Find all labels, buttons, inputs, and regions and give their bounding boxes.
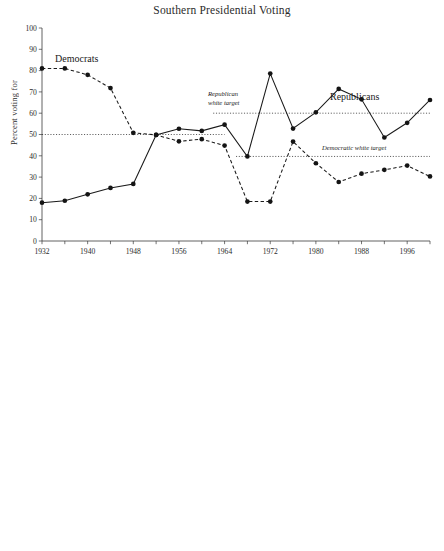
plot-svg-top: 0102030405060708090100193219401948195619…: [0, 0, 444, 275]
series-label-democrats: Democrats: [55, 53, 98, 64]
data-point: [177, 126, 182, 131]
y-tick-label: 60: [29, 109, 37, 118]
x-tick-label: 1972: [263, 247, 278, 256]
data-point: [291, 139, 296, 144]
y-tick-label: 20: [29, 194, 37, 203]
x-tick-label: 1948: [126, 247, 141, 256]
data-point: [314, 161, 319, 166]
y-tick-label: 40: [29, 152, 37, 161]
data-point: [245, 199, 250, 204]
y-tick-label: 0: [33, 237, 37, 246]
data-point: [85, 73, 90, 78]
x-tick-label: 1988: [354, 247, 369, 256]
data-point: [428, 174, 433, 179]
data-point: [245, 154, 250, 159]
plot-area-top: 0102030405060708090100193219401948195619…: [0, 0, 444, 275]
data-point: [405, 120, 410, 125]
data-point: [62, 66, 67, 71]
data-point: [154, 133, 159, 138]
y-tick-label: 30: [29, 173, 37, 182]
x-tick-label: 1996: [400, 247, 415, 256]
data-point: [359, 171, 364, 176]
data-point: [177, 139, 182, 144]
data-point: [291, 126, 296, 131]
democratic-target-label: Democratic white target: [321, 144, 386, 151]
data-point: [131, 130, 136, 135]
y-tick-label: 80: [29, 66, 37, 75]
figure-page: Southern Presidential Voting Percent vot…: [0, 0, 444, 551]
data-point: [62, 198, 67, 203]
data-point: [382, 135, 387, 140]
data-point: [199, 129, 204, 134]
x-tick-label: 1964: [217, 247, 232, 256]
x-tick-label: 1932: [34, 247, 49, 256]
data-point: [222, 122, 227, 127]
republican-target-label-line2: white target: [208, 99, 240, 106]
data-point: [199, 137, 204, 142]
data-point: [382, 168, 387, 173]
series-label-republicans: Republicans: [330, 91, 380, 102]
y-tick-label: 10: [29, 215, 37, 224]
y-tick-label: 50: [29, 130, 37, 139]
y-tick-label: 100: [25, 24, 37, 33]
data-point: [268, 199, 273, 204]
x-tick-label: 1940: [80, 247, 95, 256]
data-point: [40, 200, 45, 205]
y-tick-label: 70: [29, 88, 37, 97]
data-point: [222, 143, 227, 148]
data-point: [108, 86, 113, 91]
data-point: [314, 110, 319, 115]
y-tick-label: 90: [29, 45, 37, 54]
axis-lines: [42, 28, 430, 241]
data-point: [268, 71, 273, 76]
x-tick-label: 1980: [308, 247, 323, 256]
series-line-democrats: [42, 68, 430, 201]
data-point: [428, 98, 433, 103]
data-point: [40, 66, 45, 71]
data-point: [85, 192, 90, 197]
data-point: [131, 182, 136, 187]
data-point: [108, 186, 113, 191]
chart-southern-presidential-voting: Southern Presidential Voting Percent vot…: [0, 0, 444, 275]
x-tick-label: 1956: [171, 247, 186, 256]
data-point: [336, 180, 341, 185]
data-point: [405, 163, 410, 168]
republican-target-label-line1: Republican: [207, 90, 239, 97]
